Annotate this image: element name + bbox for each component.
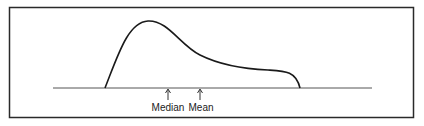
- mean-label: Mean: [188, 102, 213, 113]
- skewed-distribution-diagram: Median Mean: [0, 0, 424, 126]
- frame-border: [10, 8, 414, 118]
- median-label: Median: [152, 102, 185, 113]
